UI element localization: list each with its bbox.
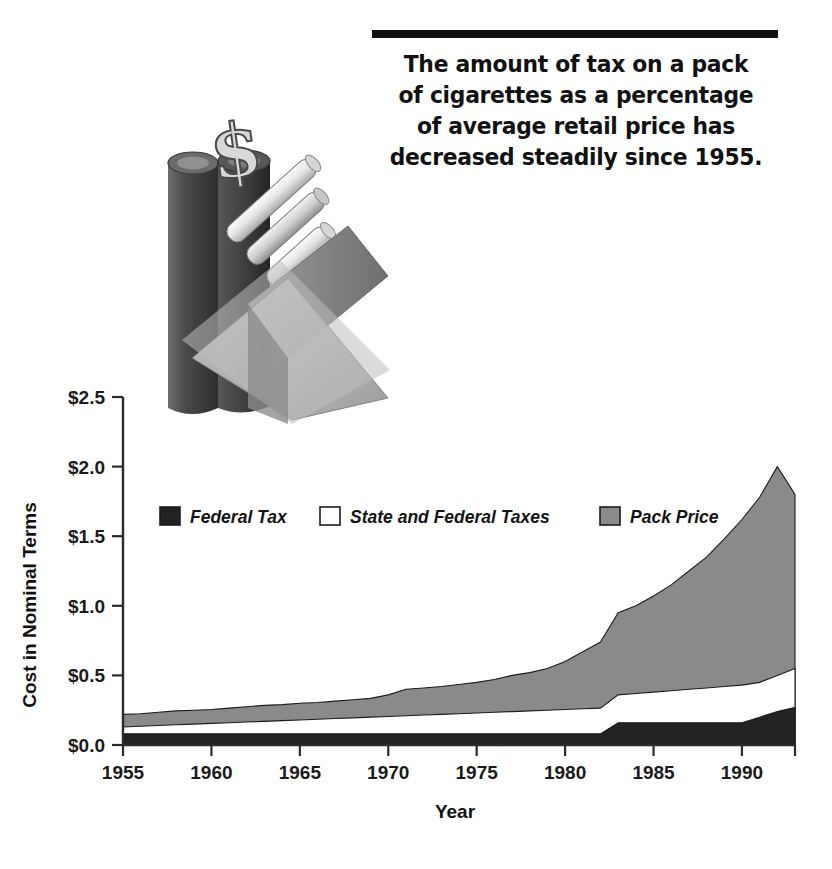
headline-line-4: decreased steadily since 1955. — [386, 142, 765, 173]
headline-line-3: of average retail price has — [386, 111, 765, 142]
y-tick-label: $2.0 — [68, 457, 105, 478]
y-tick-label: $0.0 — [68, 735, 105, 756]
y-tick-label: $0.5 — [68, 665, 105, 686]
x-tick-label: 1955 — [102, 762, 145, 783]
chart-svg: Cost in Nominal Terms $0.0$0.5$1.0$1.5$2… — [0, 340, 832, 860]
x-tick-label: 1985 — [632, 762, 675, 783]
x-tick-label: 1975 — [456, 762, 499, 783]
y-tick-label: $1.5 — [68, 526, 105, 547]
y-axis-ticks: $0.0$0.5$1.0$1.5$2.0$2.5 — [68, 387, 123, 756]
chart-legend: Federal TaxState and Federal TaxesPack P… — [160, 507, 719, 527]
x-axis-ticks: 19551960196519701975198019851990 — [102, 745, 795, 783]
x-tick-label: 1960 — [190, 762, 232, 783]
legend-swatch-federal-tax — [160, 507, 180, 525]
chart: Cost in Nominal Terms $0.0$0.5$1.0$1.5$2… — [0, 340, 832, 860]
y-tick-label: $1.0 — [68, 596, 105, 617]
headline-text: The amount of tax on a pack of cigarette… — [386, 49, 765, 173]
legend-label-pack-price: Pack Price — [630, 507, 719, 527]
headline-rule — [372, 30, 778, 38]
y-tick-label: $2.5 — [68, 387, 105, 408]
svg-text:$: $ — [204, 108, 267, 197]
headline-line-1: The amount of tax on a pack — [386, 49, 765, 80]
legend-label-state-and-federal-taxes: State and Federal Taxes — [350, 507, 550, 527]
dollar-sign-icon: $ — [204, 108, 267, 197]
x-tick-label: 1980 — [544, 762, 586, 783]
legend-swatch-pack-price — [600, 507, 620, 525]
legend-label-federal-tax: Federal Tax — [190, 507, 288, 527]
legend-swatch-state-and-federal-taxes — [320, 507, 340, 525]
x-tick-label: 1970 — [367, 762, 409, 783]
x-tick-label: 1965 — [279, 762, 322, 783]
x-tick-label: 1990 — [721, 762, 763, 783]
headline-block: The amount of tax on a pack of cigarette… — [372, 30, 780, 173]
y-axis-title: Cost in Nominal Terms — [19, 502, 40, 708]
x-axis-title: Year — [435, 801, 476, 822]
headline-line-2: of cigarettes as a percentage — [386, 80, 765, 111]
